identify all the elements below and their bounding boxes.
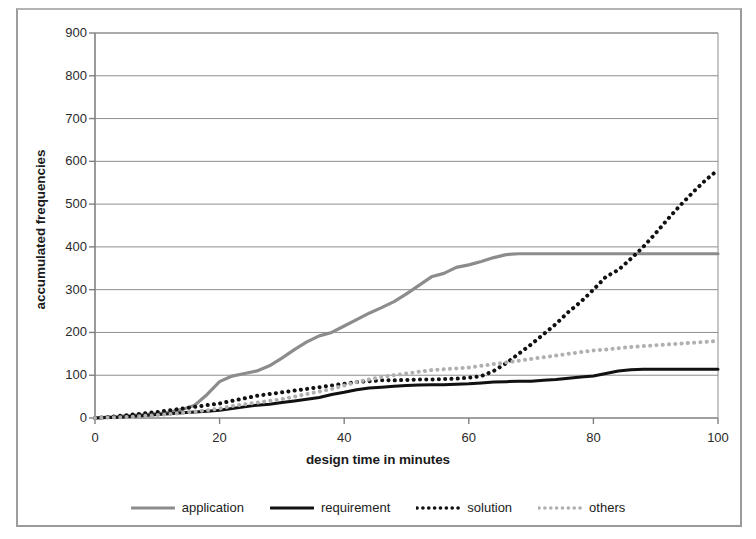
y-tick-label: 400 (41, 239, 87, 254)
chart-figure: 9008007006005004003002001000 02040608010… (0, 0, 756, 539)
legend-label: application (182, 500, 244, 515)
legend-swatch-application (131, 503, 175, 513)
chart-legend: applicationrequirementsolutionothers (0, 500, 756, 515)
y-tick-label: 700 (41, 111, 87, 126)
gridlines (95, 33, 718, 375)
y-tick-label: 100 (41, 367, 87, 382)
y-tick-label: 500 (41, 196, 87, 211)
y-tick-label: 900 (41, 25, 87, 40)
legend-label: others (589, 500, 625, 515)
x-tick-label: 80 (570, 430, 616, 445)
y-tick-label: 200 (41, 324, 87, 339)
x-tick-label: 60 (446, 430, 492, 445)
x-tick-label: 100 (695, 430, 741, 445)
x-tick-label: 0 (72, 430, 118, 445)
legend-item-application[interactable]: application (131, 500, 244, 515)
y-tick-label: 800 (41, 68, 87, 83)
series-line-application (95, 254, 718, 418)
legend-swatch-others (538, 503, 582, 513)
x-tick-label: 40 (321, 430, 367, 445)
y-axis-title: accumulated frequencies (33, 130, 48, 330)
y-tick-label: 300 (41, 282, 87, 297)
legend-item-requirement[interactable]: requirement (270, 500, 390, 515)
legend-label: solution (467, 500, 512, 515)
legend-item-solution[interactable]: solution (416, 500, 512, 515)
data-series-group (95, 170, 718, 418)
axis-tick-marks (89, 33, 718, 424)
legend-item-others[interactable]: others (538, 500, 625, 515)
x-tick-label: 20 (197, 430, 243, 445)
legend-label: requirement (321, 500, 390, 515)
legend-swatch-solution (416, 503, 460, 513)
x-axis-title: design time in minutes (0, 452, 756, 467)
y-tick-label: 600 (41, 153, 87, 168)
plot-area-border (95, 33, 718, 418)
y-tick-label: 0 (41, 410, 87, 425)
legend-swatch-requirement (270, 503, 314, 513)
